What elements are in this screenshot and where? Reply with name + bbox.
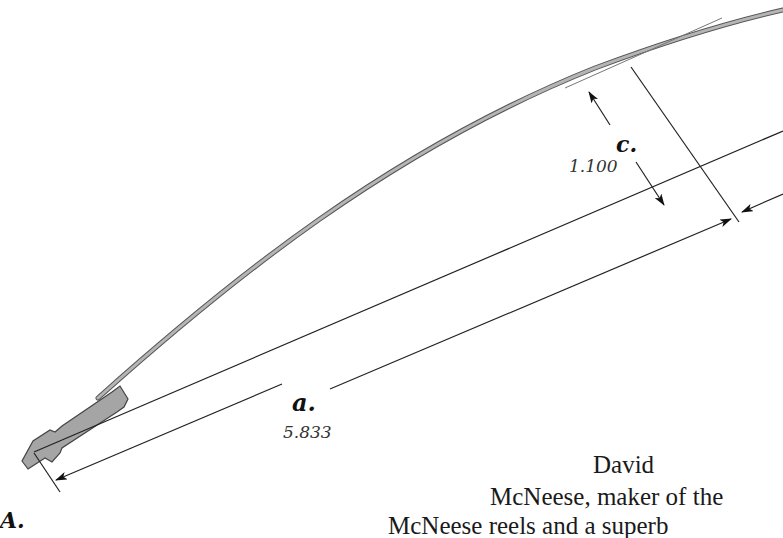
dim-line-a-ext [742, 194, 783, 212]
label-dim-c-letter: c. [616, 131, 637, 157]
caption-line-2: McNeese, maker of the [490, 484, 723, 509]
label-dim-a-letter: a. [292, 388, 316, 417]
label-point-a: A. [0, 507, 25, 533]
caption-line-3: McNeese reels and a superb [388, 513, 668, 538]
rod-blank [98, 10, 783, 398]
label-dim-c-value: 1.100 [569, 156, 618, 176]
rod-bend-diagram: A. a. 5.833 c. 1.100 [0, 0, 783, 538]
label-dim-a-value: 5.833 [283, 422, 332, 442]
caption-line-1: David [593, 452, 654, 477]
baseline-upper [34, 131, 783, 452]
dim-arrow-c-up [589, 92, 610, 125]
dim-line-a-right [330, 219, 731, 389]
extension-line-c [631, 67, 739, 222]
dim-line-a-left [56, 384, 282, 480]
